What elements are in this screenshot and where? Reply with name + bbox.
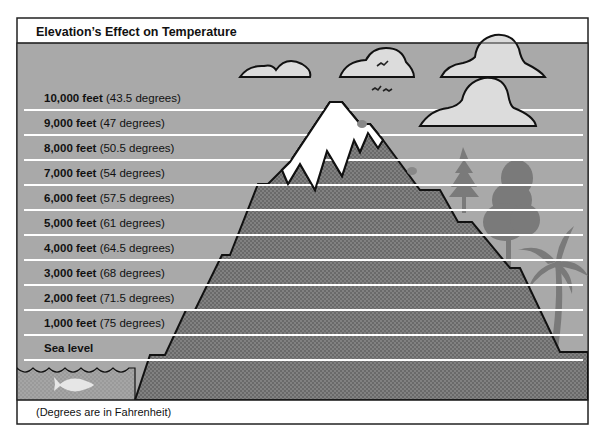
elevation-label-10000: 10,000 feet (43.5 degrees) [44, 92, 181, 104]
figure-title: Elevation’s Effect on Temperature [36, 25, 237, 39]
elevation-temperature-diagram: Elevation’s Effect on Temperature 10,000… [0, 0, 605, 438]
elevation-label-sea-level: Sea level [44, 342, 93, 354]
elevation-label-4000: 4,000 feet (64.5 degrees) [44, 242, 174, 254]
bird-icon [357, 120, 367, 128]
footnote: (Degrees are in Fahrenheit) [36, 406, 171, 418]
bird-icon [383, 89, 392, 91]
elevation-label-5000: 5,000 feet (61 degrees) [44, 217, 165, 229]
elevation-label-7000: 7,000 feet (54 degrees) [44, 167, 165, 179]
elevation-label-2000: 2,000 feet (71.5 degrees) [44, 292, 174, 304]
elevation-label-8000: 8,000 feet (50.5 degrees) [44, 142, 174, 154]
elevation-label-6000: 6,000 feet (57.5 degrees) [44, 192, 174, 204]
elevation-label-9000: 9,000 feet (47 degrees) [44, 117, 165, 129]
elevation-label-3000: 3,000 feet (68 degrees) [44, 267, 165, 279]
bird-icon [407, 167, 417, 175]
elevation-label-1000: 1,000 feet (75 degrees) [44, 317, 165, 329]
